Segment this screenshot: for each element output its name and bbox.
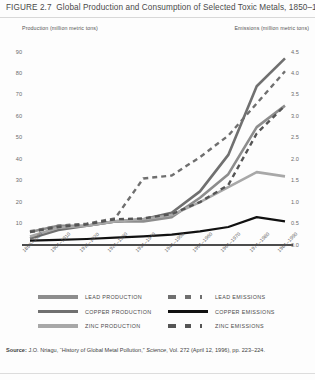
source-note: Source: J.O. Nriagu, “History of Global … <box>6 346 309 354</box>
right-tick-0.5: 0.5 <box>291 220 309 226</box>
source-text-2: , Vol. 272 (April 12, 1996), pp. 223–224… <box>166 347 265 353</box>
chart-plot-area: 102030405060708090 0.00.51.01.52.02.53.0… <box>0 36 315 254</box>
right-tick-1.5: 1.5 <box>291 177 309 183</box>
legend-item-zinc-emissions[interactable]: ZINC EMISSIONS <box>168 323 264 329</box>
figure-title: FIGURE 2.7 Global Production and Consump… <box>6 3 311 12</box>
left-tick-40: 40 <box>6 156 22 162</box>
right-tick-3.5: 3.5 <box>291 91 309 97</box>
source-text-1: J.O. Nriagu, “History of Global Metal Po… <box>27 347 146 353</box>
legend-swatch-copper-emissions-icon <box>168 310 208 313</box>
right-tick-4.5: 4.5 <box>291 49 309 55</box>
left-tick-90: 90 <box>6 49 22 55</box>
left-tick-50: 50 <box>6 134 22 140</box>
right-tick-4: 4.0 <box>291 70 309 76</box>
left-tick-80: 80 <box>6 70 22 76</box>
source-journal: Science <box>146 347 166 353</box>
series-copper-production <box>30 58 285 238</box>
bottom-divider <box>0 373 315 374</box>
left-tick-10: 10 <box>6 220 22 226</box>
series-lead-production <box>30 106 285 233</box>
title-divider <box>0 17 315 18</box>
legend-swatch-zinc-production-icon <box>38 324 78 327</box>
legend-swatch-lead-production-icon <box>38 295 78 298</box>
figure-container: FIGURE 2.7 Global Production and Consump… <box>0 0 315 380</box>
figure-number: FIGURE 2.7 <box>6 3 52 12</box>
legend-swatch-copper-production-icon <box>38 310 78 313</box>
legend-item-zinc-production[interactable]: ZINC PRODUCTION <box>38 323 141 329</box>
legend-label-lead-emissions: LEAD EMISSIONS <box>215 294 265 300</box>
left-tick-60: 60 <box>6 113 22 119</box>
right-tick-2.5: 2.5 <box>291 134 309 140</box>
legend-item-lead-production[interactable]: LEAD PRODUCTION <box>38 294 142 300</box>
left-tick-30: 30 <box>6 177 22 183</box>
right-tick-1: 1.0 <box>291 199 309 205</box>
legend-label-zinc-emissions: ZINC EMISSIONS <box>215 323 264 329</box>
x-axis-labels: 1850–19001901–19101911–19201921–19301931… <box>0 246 315 284</box>
legend-label-lead-production: LEAD PRODUCTION <box>85 294 142 300</box>
legend-item-copper-production[interactable]: COPPER PRODUCTION <box>38 309 151 315</box>
left-tick-20: 20 <box>6 199 22 205</box>
legend-swatch-lead-emissions-icon <box>168 295 208 298</box>
series-zinc-emissions <box>30 106 285 233</box>
chart-legend: LEAD PRODUCTIONCOPPER PRODUCTIONZINC PRO… <box>0 292 315 337</box>
legend-label-zinc-production: ZINC PRODUCTION <box>85 323 141 329</box>
right-tick-3: 3.0 <box>291 113 309 119</box>
legend-label-copper-emissions: COPPER EMISSIONS <box>215 309 275 315</box>
figure-title-text: Global Production and Consumption of Sel… <box>56 3 315 12</box>
left-tick-70: 70 <box>6 91 22 97</box>
chart-lines <box>0 36 315 254</box>
legend-item-lead-emissions[interactable]: LEAD EMISSIONS <box>168 294 265 300</box>
legend-swatch-zinc-emissions-icon <box>168 324 208 327</box>
right-tick-2: 2.0 <box>291 156 309 162</box>
source-label: Source: <box>6 347 27 353</box>
left-axis-caption: Production (million metric tons) <box>22 25 98 31</box>
legend-item-copper-emissions[interactable]: COPPER EMISSIONS <box>168 309 275 315</box>
right-axis-caption: Emissions (million metric tons) <box>234 25 309 31</box>
legend-label-copper-production: COPPER PRODUCTION <box>85 309 151 315</box>
